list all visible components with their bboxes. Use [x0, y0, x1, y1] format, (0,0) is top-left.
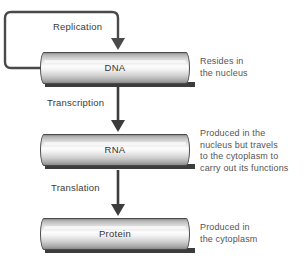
- annotation-dna-line-2: the nucleus: [200, 68, 305, 80]
- node-dna-label: DNA: [105, 63, 126, 73]
- replication-arrowhead: [111, 38, 125, 50]
- annotation-rna-line-3: to the cytoplasm to: [200, 151, 305, 163]
- diagram-canvas: DNA RNA Protein Replication Transcriptio…: [0, 0, 305, 258]
- annotation-protein: Produced in the cytoplasm: [200, 222, 305, 245]
- translation-arrowhead: [111, 204, 125, 216]
- node-rna[interactable]: RNA: [40, 134, 190, 166]
- transcription-arrowhead: [111, 120, 125, 132]
- node-dna[interactable]: DNA: [40, 52, 190, 84]
- annotation-rna-line-4: carry out its functions: [200, 163, 305, 175]
- annotation-rna-line-2: nucleus but travels: [200, 140, 305, 152]
- annotation-protein-line-2: the cytoplasm: [200, 234, 305, 246]
- process-label-translation: Translation: [50, 182, 101, 193]
- node-protein-label: Protein: [99, 229, 131, 239]
- node-protein[interactable]: Protein: [40, 218, 190, 250]
- annotation-protein-line-1: Produced in: [200, 222, 305, 234]
- process-label-transcription: Transcription: [46, 97, 105, 108]
- annotation-rna: Produced in the nucleus but travels to t…: [200, 128, 305, 174]
- node-rna-label: RNA: [105, 145, 126, 155]
- process-label-replication: Replication: [52, 21, 103, 32]
- annotation-dna: Resides in the nucleus: [200, 56, 305, 79]
- annotation-dna-line-1: Resides in: [200, 56, 305, 68]
- annotation-rna-line-1: Produced in the: [200, 128, 305, 140]
